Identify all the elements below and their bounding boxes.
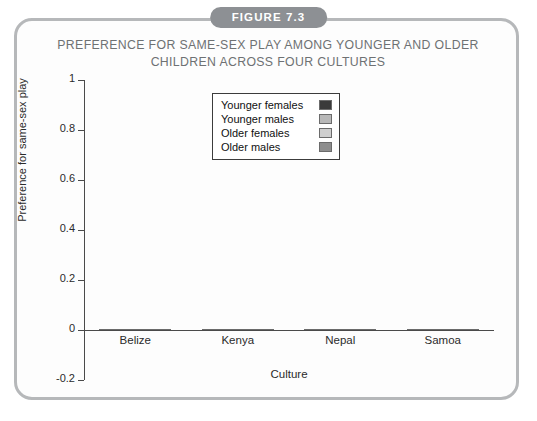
bar [304,329,322,330]
bar [202,329,220,330]
chart-legend: Younger femalesYounger malesOlder female… [212,93,340,160]
bar [135,329,153,330]
bar-group: Samoa [392,80,495,330]
chart-title: PREFERENCE FOR SAME-SEX PLAY AMONG YOUNG… [38,37,498,71]
bar [407,329,425,330]
figure-container: FIGURE 7.3 PREFERENCE FOR SAME-SEX PLAY … [0,0,537,421]
bar [256,329,274,330]
bar-group: Belize [84,80,187,330]
bar [425,329,443,330]
bar [322,329,340,330]
y-tick-label: 0.2 [60,272,75,284]
x-tick-label: Belize [84,334,187,346]
y-tick-mark [78,330,84,331]
y-tick-label: 0.6 [60,172,75,184]
legend-swatch [319,128,332,138]
bar [443,329,461,330]
legend-item: Older males [221,140,332,154]
bar [461,329,479,330]
bar [220,329,238,330]
x-tick-label: Kenya [187,334,290,346]
chart-title-line-1: PREFERENCE FOR SAME-SEX PLAY AMONG YOUNG… [38,37,498,54]
bar [117,329,135,330]
figure-number-badge: FIGURE 7.3 [210,7,328,28]
bar [99,329,117,330]
y-tick-label: 0 [69,322,75,334]
legend-item: Younger males [221,112,332,126]
legend-swatch [319,114,332,124]
x-tick-label: Nepal [289,334,392,346]
y-tick-label: -0.2 [56,372,75,384]
y-tick-mark [78,380,84,381]
x-tick-label: Samoa [392,334,495,346]
bar [153,329,171,330]
legend-swatch [319,142,332,152]
bar [358,329,376,330]
legend-label: Younger males [221,113,294,125]
y-tick-label: 0.4 [60,222,75,234]
y-tick-label: 0.8 [60,122,75,134]
bar [340,329,358,330]
legend-label: Older females [221,127,289,139]
y-axis-label: Preference for same-sex play [16,78,28,222]
legend-item: Younger females [221,98,332,112]
legend-swatch [319,100,332,110]
x-axis-zero-line [84,330,494,331]
chart-title-line-2: CHILDREN ACROSS FOUR CULTURES [38,54,498,71]
y-tick-label: 1 [69,72,75,84]
legend-label: Older males [221,141,280,153]
legend-item: Older females [221,126,332,140]
x-axis-label: Culture [84,368,494,380]
bar [238,329,256,330]
legend-label: Younger females [221,99,303,111]
